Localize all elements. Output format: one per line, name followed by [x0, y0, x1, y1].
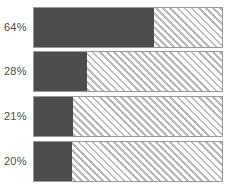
bar-track [33, 96, 223, 137]
bar-row: 21% [0, 96, 230, 137]
bar-value-label: 28% [0, 66, 33, 77]
bar-value-label: 21% [0, 111, 33, 122]
bar-track [33, 141, 223, 182]
bar-track [33, 7, 223, 48]
bar-fill [34, 52, 87, 91]
bar-fill [34, 97, 73, 136]
bar-value-label: 20% [0, 156, 33, 167]
bar-row: 20% [0, 141, 230, 182]
bar-row: 64% [0, 7, 230, 48]
stacked-bar-chart: 64% 28% 21% 20% [0, 0, 230, 195]
bar-track [33, 51, 223, 92]
bar-fill [34, 142, 72, 181]
bar-fill [34, 8, 154, 47]
bar-row: 28% [0, 51, 230, 92]
bar-value-label: 64% [0, 22, 33, 33]
